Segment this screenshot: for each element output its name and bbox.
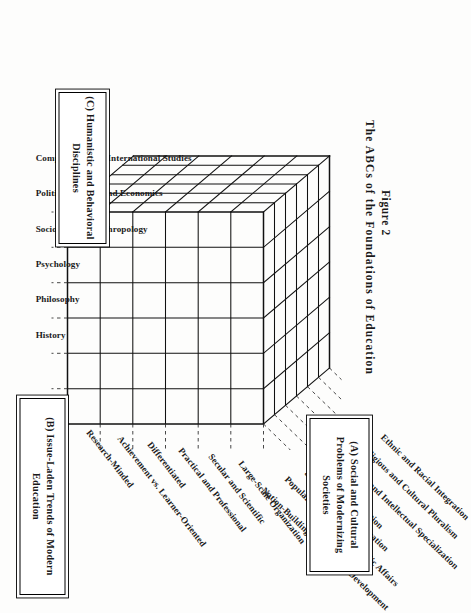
axis-c-text-5: Philosophy	[35, 294, 79, 304]
legend-box-c: (C) Humanistic and Behavioral Discipline…	[58, 92, 106, 244]
axis-c-label-6: History	[35, 330, 36, 341]
legend-box-c-text: Humanistic and Behavioral Disciplines	[70, 114, 95, 240]
axis-c-label-4: Psychology	[35, 259, 36, 270]
axis-c-label-1: Comparative and International Studies	[35, 153, 36, 164]
legend-box-a-tag: (A)	[348, 441, 359, 456]
figure-number: Figure 2	[379, 190, 391, 236]
legend-box-b-tag: (B)	[44, 417, 55, 431]
legend-box-a-content: (A) Social and Cultural Problems of Mode…	[318, 419, 359, 571]
legend-box-b-text: Issue-Laden Trends of Modern Education	[30, 434, 55, 575]
axis-c-label-2: Political Science and Economics	[35, 188, 36, 199]
page-title: The ABCs of the Foundations of Education	[363, 120, 375, 375]
legend-box-b-content: (B) Issue-Laden Trends of Modern Educati…	[28, 399, 56, 594]
axis-c-label-5: Philosophy	[35, 294, 36, 305]
axis-c-text-4: Psychology	[35, 259, 79, 269]
axis-c-label-3: Sociology and Anthropology	[35, 224, 36, 235]
legend-box-a: (A) Social and Cultural Problems of Mode…	[309, 418, 369, 572]
axis-c-text-6: History	[35, 330, 65, 340]
legend-box-c-tag: (C)	[84, 96, 95, 111]
legend-box-c-content: (C) Humanistic and Behavioral Discipline…	[68, 93, 96, 243]
legend-box-b: (B) Issue-Laden Trends of Modern Educati…	[19, 398, 65, 595]
